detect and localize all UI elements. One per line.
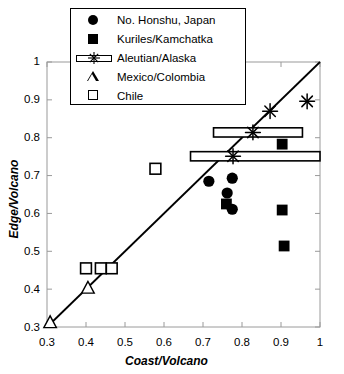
legend-item-chile: Chile [71,86,245,105]
data-point [95,263,106,274]
data-point [300,94,315,109]
x-tick-label: 0.6 [153,336,175,348]
x-tick-label: 0.3 [36,336,58,348]
y-tick-label: 1 [8,55,40,67]
x-tick-label: 0.4 [75,336,97,348]
data-point [246,125,261,140]
legend: No. Honshu, Japan Kuriles/Kamchatka Aleu… [70,8,246,105]
data-point [203,176,214,187]
y-tick-label: 0.9 [8,93,40,105]
data-point [277,139,288,150]
legend-item-mexico-colombia: Mexico/Colombia [71,67,245,86]
data-point [263,104,278,119]
y-tick-label: 0.3 [8,321,40,333]
filled-circle-icon [71,10,117,29]
y-tick-label: 0.8 [8,131,40,143]
y-tick-label: 0.4 [8,283,40,295]
data-point [226,149,241,164]
open-triangle-icon [71,67,117,86]
data-point [222,187,233,198]
data-point [221,199,232,210]
scatter-chart-figure: 1 0.9 0.8 0.7 0.6 0.5 0.4 0.3 0.3 0.4 0.… [0,0,344,374]
x-tick-label: 0.5 [114,336,136,348]
x-axis-title: Coast/Volcano [125,354,208,368]
errorbar-asterisk-icon [71,48,117,67]
legend-item-label: No. Honshu, Japan [117,14,215,26]
data-point [106,263,117,274]
y-tick-label: 0.5 [8,245,40,257]
y-axis-title: Edge/Volcano [7,160,21,239]
legend-item-no-honshu-japan: No. Honshu, Japan [71,10,245,29]
error-bar [191,152,320,161]
data-point [227,173,238,184]
x-tick-label: 0.8 [231,336,253,348]
legend-item-label: Chile [117,90,143,102]
filled-square-icon [71,29,117,48]
x-tick-label: 0.9 [270,336,292,348]
x-tick-label: 0.7 [192,336,214,348]
legend-item-aleutian-alaska: Aleutian/Alaska [71,48,245,67]
legend-item-label: Kuriles/Kamchatka [117,33,213,45]
legend-item-label: Mexico/Colombia [117,71,205,83]
legend-item-label: Aleutian/Alaska [117,52,196,64]
open-square-icon [71,86,117,105]
data-point [81,263,92,274]
data-point [277,205,288,216]
data-point [150,163,161,174]
x-tick-label: 1 [309,336,331,348]
legend-item-kuriles-kamchatka: Kuriles/Kamchatka [71,29,245,48]
data-point [279,241,290,252]
